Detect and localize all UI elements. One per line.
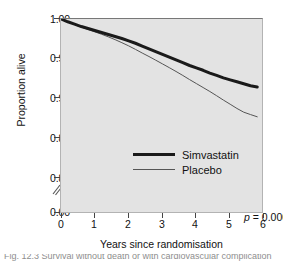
legend-label: Placebo <box>182 164 222 176</box>
legend-line-thin-icon <box>133 169 175 170</box>
x-tick-mark <box>229 213 230 218</box>
figure-caption: Fig. 12.3 Survival without death or with… <box>4 254 272 261</box>
curve-placebo <box>61 19 257 117</box>
x-tick-label: 6 <box>253 218 273 230</box>
x-tick-label: 1 <box>84 218 104 230</box>
x-tick-mark <box>263 213 264 218</box>
legend-line-thick-icon <box>133 153 175 156</box>
survival-curves <box>61 19 264 214</box>
x-axis-title: Years since randomisation <box>60 238 263 250</box>
survival-curve-figure: 1.00 0.95 0.90 0.85 0.80 0.00 Proportion… <box>0 0 283 262</box>
x-tick-mark <box>128 213 129 218</box>
legend-item-placebo: Placebo <box>133 162 239 177</box>
x-tick-label: 3 <box>152 218 172 230</box>
x-tick-label: 0 <box>51 218 71 230</box>
legend-label: Simvastatin <box>182 149 239 161</box>
plot-area: Simvastatin Placebo p = 0.0003 <box>60 18 263 213</box>
x-tick-label: 2 <box>118 218 138 230</box>
y-axis-title: Proportion alive <box>15 30 27 150</box>
x-tick-mark <box>162 213 163 218</box>
curve-simvastatin <box>61 19 257 87</box>
x-tick-mark <box>94 213 95 218</box>
x-tick-label: 5 <box>219 218 239 230</box>
legend-item-simvastatin: Simvastatin <box>133 147 239 162</box>
x-tick-mark <box>195 213 196 218</box>
figure-caption-strip: Fig. 12.3 Survival without death or with… <box>0 254 283 262</box>
x-tick-label: 4 <box>185 218 205 230</box>
legend: Simvastatin Placebo <box>133 147 239 177</box>
x-tick-mark <box>61 213 62 218</box>
